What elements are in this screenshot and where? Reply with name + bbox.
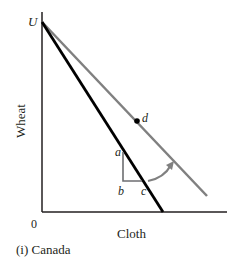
label-d: d [142, 111, 148, 126]
x-axis-label: Cloth [117, 226, 146, 242]
label-b: b [118, 184, 124, 199]
trade-line [42, 22, 207, 196]
y-axis-label: Wheat [13, 104, 29, 138]
label-U: U [28, 14, 37, 30]
label-a: a [115, 145, 121, 160]
origin-label: 0 [31, 217, 37, 232]
figure-caption: (i) Canada [16, 242, 71, 258]
rotation-arrow [148, 165, 171, 181]
point-d [134, 118, 140, 124]
label-c: c [141, 184, 146, 199]
